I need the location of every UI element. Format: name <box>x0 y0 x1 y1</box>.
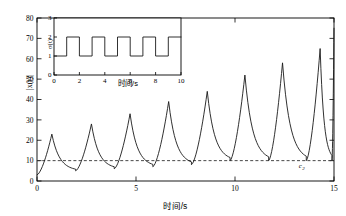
x-tick-label: 5 <box>134 184 138 193</box>
main-x-tick-labels: 051015 <box>35 184 338 193</box>
y-tick-label: 80 <box>26 14 34 23</box>
inset-y-tick-label: 3 <box>48 14 52 22</box>
inset-x-axis-label: 时间/s <box>88 77 168 88</box>
chart-figure: 01020304050607080 051015 c 2 0123 024681… <box>0 0 346 216</box>
x-tick-label: 0 <box>35 184 39 193</box>
inset-x-tick-label: 0 <box>52 77 56 85</box>
y-tick-label: 0 <box>30 177 34 186</box>
svg-text:2: 2 <box>302 166 305 171</box>
y-tick-label: 70 <box>26 34 34 43</box>
y-tick-label: 30 <box>26 116 34 125</box>
y-tick-label: 20 <box>26 136 34 145</box>
inset-x-tick-label: 10 <box>178 77 186 85</box>
x-tick-label: 10 <box>231 184 239 193</box>
main-x-axis-label: 时间/s <box>120 199 230 211</box>
c2-annotation: c 2 <box>299 162 306 171</box>
y-tick-label: 10 <box>26 156 34 165</box>
inset-x-tick-label: 2 <box>78 77 82 85</box>
x-tick-label: 15 <box>330 184 338 193</box>
main-y-axis-label: |x(t)| <box>25 53 34 113</box>
inset-y-axis-label: σ(t) <box>46 27 54 61</box>
